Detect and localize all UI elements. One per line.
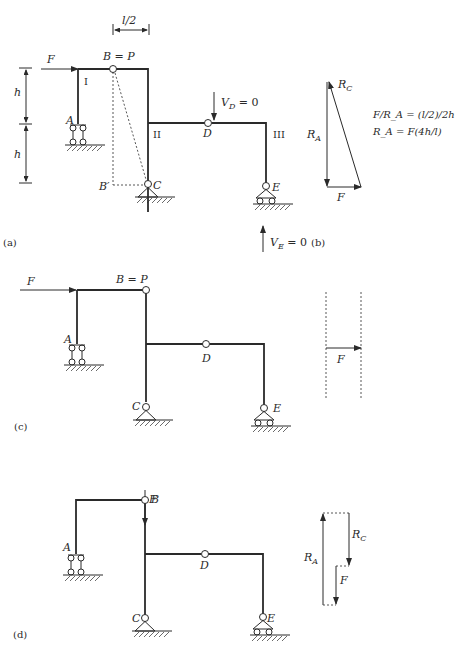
equation-1: F/R_A = (l/2)/2h bbox=[372, 109, 455, 121]
svg-text:RC: RC bbox=[337, 78, 352, 93]
label-B: B = P bbox=[102, 50, 135, 63]
dim-h-top: h bbox=[14, 86, 21, 99]
svg-text:F: F bbox=[336, 353, 345, 366]
svg-text:B = P: B = P bbox=[115, 273, 148, 286]
svg-text:E: E bbox=[266, 612, 275, 625]
hinge-B bbox=[110, 66, 117, 73]
equation-2: R_A = F(4h/l) bbox=[372, 126, 442, 138]
label-A: A bbox=[65, 114, 74, 127]
svg-text:C: C bbox=[132, 612, 141, 625]
svg-text:RA: RA bbox=[303, 551, 318, 566]
svg-text:B: B bbox=[150, 493, 159, 506]
svg-text:(d): (d) bbox=[13, 629, 27, 640]
svg-text:E: E bbox=[272, 402, 281, 415]
svg-text:F: F bbox=[339, 574, 348, 587]
svg-text:A: A bbox=[62, 541, 71, 554]
panel-d: F B A C D E (d) RA RC F bbox=[13, 490, 366, 641]
structural-diagram: l/2 h h F B′ B = P I II III A C D bbox=[0, 0, 456, 653]
svg-text:D: D bbox=[199, 559, 209, 572]
panel-a: l/2 h h F B′ B = P I II III A C D bbox=[3, 14, 307, 252]
svg-text:A: A bbox=[63, 333, 72, 346]
svg-text:D: D bbox=[201, 352, 211, 365]
label-member-I: I bbox=[84, 76, 88, 87]
force-RC bbox=[329, 82, 361, 187]
svg-text:RA: RA bbox=[306, 128, 321, 143]
panel-b: RC RA F F/R_A = (l/2)/2h R_A = F(4h/l) (… bbox=[306, 78, 455, 248]
label-F: F bbox=[46, 53, 55, 66]
svg-text:F: F bbox=[336, 191, 345, 204]
label-D: D bbox=[202, 127, 212, 140]
svg-text:VE = 0: VE = 0 bbox=[270, 236, 307, 251]
dim-half-span: l/2 bbox=[122, 14, 136, 27]
label-B-prime: B′ bbox=[98, 180, 110, 193]
label-C: C bbox=[153, 179, 162, 192]
hinge-D bbox=[205, 120, 212, 127]
svg-text:RC: RC bbox=[351, 528, 366, 543]
svg-text:F: F bbox=[26, 275, 35, 288]
svg-text:VD = 0: VD = 0 bbox=[221, 96, 259, 111]
caption-b: (b) bbox=[311, 237, 325, 248]
label-member-III: III bbox=[273, 129, 285, 140]
label-E: E bbox=[271, 181, 280, 194]
panel-c: F B = P A C D E (c) F bbox=[14, 273, 361, 432]
svg-text:(c): (c) bbox=[14, 421, 28, 432]
caption-a: (a) bbox=[3, 237, 17, 248]
support-A bbox=[65, 125, 105, 151]
dim-h-bottom: h bbox=[14, 148, 21, 161]
svg-text:C: C bbox=[132, 400, 141, 413]
label-member-II: II bbox=[153, 129, 161, 140]
